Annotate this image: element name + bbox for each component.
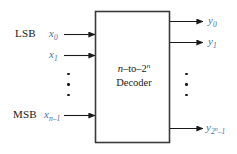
msb-label: MSB: [13, 109, 37, 120]
output-var-sub-y0: 0: [213, 20, 217, 29]
decoder-exponent-n: n: [147, 62, 151, 70]
ellipsis-dot: [67, 83, 69, 85]
decoder-to-separator: –to–: [123, 63, 142, 74]
output-label-y0: y0: [208, 15, 217, 26]
decoder-box-line2: Decoder: [96, 76, 172, 90]
output-label-y1: y1: [208, 36, 217, 47]
output-sub-tail-minus-1: –1: [218, 127, 226, 136]
output-sub-exponent-n: n: [215, 126, 218, 132]
input-var-sub-xn-1: n–1: [49, 114, 60, 123]
decoder-diagram-canvas: LSB x0 x1 MSB xn–1 n–to–2n Decoder y0 y1: [0, 0, 237, 154]
output-var-sub-y1: 1: [213, 41, 217, 50]
input-label-xn-1: xn–1: [44, 109, 60, 120]
decoder-box-text: n–to–2n Decoder: [96, 62, 172, 90]
decoder-box-line1: n–to–2n: [96, 62, 172, 76]
ellipsis-dot: [185, 73, 187, 75]
ellipsis-dot: [185, 94, 187, 96]
input-label-x1: x1: [49, 49, 58, 60]
ellipsis-dot: [67, 73, 69, 75]
right-vertical-ellipsis-icon: [184, 73, 189, 96]
output-label-y2n-1: y2n–1: [206, 122, 225, 133]
ellipsis-dot: [67, 94, 69, 96]
input-var-sub-x0: 0: [54, 33, 58, 42]
left-vertical-ellipsis-icon: [66, 73, 71, 96]
lsb-label: LSB: [15, 28, 36, 39]
input-var-sub-x1: 1: [54, 54, 58, 63]
output-var-sub-y2n-1: 2n–1: [211, 127, 225, 136]
ellipsis-dot: [185, 83, 187, 85]
input-label-x0: x0: [49, 28, 58, 39]
